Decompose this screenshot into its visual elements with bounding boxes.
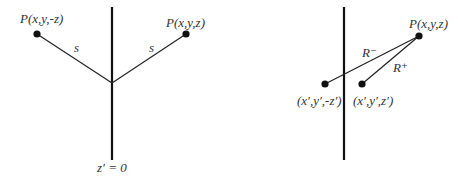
segment-left-label: s	[74, 40, 79, 55]
image-point-left-dot	[321, 80, 328, 87]
left-panel: P(x,y,-z) P(x,y,z) s s z′ = 0	[19, 7, 205, 175]
distance-minus-label: R⁻	[361, 45, 377, 60]
image-point-right-dot	[358, 80, 365, 87]
right-panel: P(x,y,z) R⁻ R⁺ (x′,y′,-z′) (x′,y′,z′)	[297, 7, 448, 160]
point-right-dot	[182, 30, 189, 37]
distance-plus-label: R⁺	[392, 60, 408, 75]
image-point-right-label: (x′,y′,z′)	[353, 93, 393, 108]
segment-right-label: s	[149, 40, 154, 55]
point-left-label: P(x,y,-z)	[19, 11, 63, 26]
point-left-dot	[33, 30, 40, 37]
point-p-dot	[415, 32, 422, 39]
point-right-label: P(x,y,z)	[165, 15, 205, 30]
image-point-left-label: (x′,y′,-z′)	[297, 93, 342, 108]
image-method-diagram: P(x,y,-z) P(x,y,z) s s z′ = 0 P(x,y,z) R…	[0, 0, 458, 182]
plane-label: z′ = 0	[96, 160, 127, 175]
point-p-label: P(x,y,z)	[408, 16, 448, 31]
segment-r-plus	[362, 36, 419, 84]
